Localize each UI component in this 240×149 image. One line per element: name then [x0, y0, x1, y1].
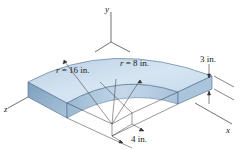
outer-radius-label: r = 16 in. [56, 66, 90, 75]
outer-radius-symbol: r [56, 65, 60, 75]
z-axis [8, 97, 28, 108]
inner-radius-value: 8 in. [133, 58, 149, 68]
inner-radius-eq: = [126, 58, 131, 68]
x-axis [195, 103, 232, 124]
inner-radius-label: r = 8 in. [120, 59, 149, 68]
thickness-label: 3 in. [200, 55, 216, 64]
inner-radius-symbol: r [120, 58, 124, 68]
y-axis [95, 12, 130, 52]
x-axis-label: x [226, 126, 230, 135]
outer-radius-value: 16 in. [69, 65, 90, 75]
annular-slab-diagram [0, 0, 240, 149]
outer-radius-eq: = [62, 65, 67, 75]
y-axis-label: y [105, 5, 109, 14]
offset-label: 4 in. [131, 135, 147, 144]
z-axis-label: z [4, 105, 8, 114]
